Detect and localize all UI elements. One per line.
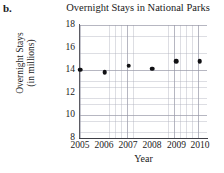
x-tick-2009: 2009 bbox=[164, 140, 190, 150]
data-point bbox=[126, 64, 131, 69]
y-axis-title-line2: (in millions) bbox=[26, 15, 37, 111]
y-tick-label: 14 bbox=[58, 65, 75, 75]
part-label: b. bbox=[3, 3, 12, 14]
chart-figure: b. Overnight Stays in National Parks 18 … bbox=[0, 0, 224, 173]
y-tick-14: 14 bbox=[58, 65, 75, 75]
x-tick-2006: 2006 bbox=[91, 140, 117, 150]
y-tick-label: 16 bbox=[58, 43, 75, 53]
y-tick-label: 12 bbox=[58, 88, 75, 98]
x-tick-2008: 2008 bbox=[139, 140, 165, 150]
y-tick-18: 18 bbox=[58, 20, 75, 30]
x-tick-2010: 2010 bbox=[187, 140, 213, 150]
x-axis-title: Year bbox=[80, 153, 207, 165]
y-axis-line bbox=[79, 24, 80, 139]
data-point bbox=[174, 59, 179, 64]
y-tick-label: 18 bbox=[58, 20, 75, 30]
chart-title: Overnight Stays in National Parks bbox=[55, 2, 221, 14]
y-tick-16: 16 bbox=[58, 43, 75, 53]
plot-area bbox=[80, 25, 207, 138]
y-axis-title: Overnight Stays (in millions) bbox=[15, 15, 37, 111]
data-point bbox=[102, 70, 107, 75]
y-tick-10: 10 bbox=[58, 110, 75, 120]
y-axis-title-line1: Overnight Stays bbox=[15, 15, 26, 111]
y-tick-label: 10 bbox=[58, 110, 75, 120]
data-point bbox=[197, 59, 202, 64]
data-point bbox=[150, 66, 155, 71]
x-tick-2005: 2005 bbox=[67, 140, 93, 150]
x-tick-2007: 2007 bbox=[115, 140, 141, 150]
data-point bbox=[78, 68, 83, 73]
y-tick-12: 12 bbox=[58, 88, 75, 98]
